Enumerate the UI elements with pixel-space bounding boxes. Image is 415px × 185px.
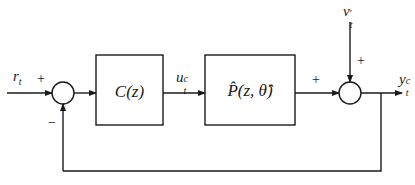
sum1-plus-sign: + (37, 72, 45, 86)
sum2-plant-plus-sign: + (312, 73, 320, 87)
sum2-disturbance-plus-sign: + (357, 54, 365, 68)
sum1-minus-sign: − (48, 116, 56, 130)
block-diagram: rt + − C(z) P̂(z, θ̂) uct + + v′t yct (0, 0, 415, 185)
feedback-path (63, 93, 381, 171)
controller-label: C(z) (96, 83, 163, 100)
summing-junction-1 (52, 82, 74, 104)
summing-junction-2 (339, 82, 361, 104)
control-signal-label: uct (176, 70, 190, 85)
output-label: yct (399, 72, 412, 87)
plant-label: P̂(z, θ̂) (205, 82, 295, 99)
reference-label: rt (13, 69, 22, 87)
disturbance-label: v′t (343, 4, 356, 19)
